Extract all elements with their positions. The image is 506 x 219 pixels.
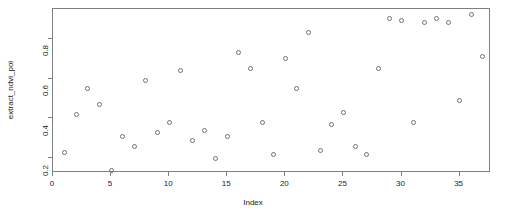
y-tick-label: 0.8 xyxy=(41,38,50,64)
data-point xyxy=(353,144,358,149)
x-tick-label: 35 xyxy=(446,179,472,188)
data-point xyxy=(225,134,230,139)
scatter-plot-figure: 05101520253035 0.20.40.60.8 Index extrac… xyxy=(0,0,506,219)
data-point xyxy=(190,138,195,143)
data-point xyxy=(283,56,288,61)
y-tick-label: 0.4 xyxy=(41,117,50,143)
x-tick-mark xyxy=(110,172,111,176)
y-axis-label: extract_ndvi_poi xyxy=(6,8,18,172)
data-point xyxy=(202,128,207,133)
data-point xyxy=(271,152,276,157)
x-tick-mark xyxy=(284,172,285,176)
data-point xyxy=(155,130,160,135)
x-tick-label: 15 xyxy=(213,179,239,188)
x-tick-label: 10 xyxy=(155,179,181,188)
data-point xyxy=(318,148,323,153)
x-tick-mark xyxy=(342,172,343,176)
x-tick-mark xyxy=(52,172,53,176)
data-point xyxy=(260,120,265,125)
x-tick-label: 25 xyxy=(329,179,355,188)
x-tick-label: 5 xyxy=(97,179,123,188)
y-tick-label: 0.6 xyxy=(41,78,50,104)
x-tick-mark xyxy=(226,172,227,176)
data-point xyxy=(97,102,102,107)
data-point xyxy=(62,150,67,155)
data-points-layer xyxy=(53,9,489,171)
data-point xyxy=(399,18,404,23)
data-point xyxy=(480,54,485,59)
x-tick-mark xyxy=(401,172,402,176)
data-point xyxy=(422,20,427,25)
y-tick-label: 0.2 xyxy=(41,157,50,183)
data-point xyxy=(434,16,439,21)
data-point xyxy=(85,86,90,91)
data-point xyxy=(376,66,381,71)
data-point xyxy=(329,122,334,127)
data-point xyxy=(248,66,253,71)
x-tick-mark xyxy=(459,172,460,176)
data-point xyxy=(364,152,369,157)
data-point xyxy=(178,68,183,73)
data-point xyxy=(306,30,311,35)
data-point xyxy=(120,134,125,139)
data-point xyxy=(294,86,299,91)
x-axis-label: Index xyxy=(0,198,506,207)
data-point xyxy=(341,110,346,115)
data-point xyxy=(236,50,241,55)
data-point xyxy=(74,112,79,117)
plot-area-box xyxy=(52,8,490,172)
x-tick-label: 30 xyxy=(388,179,414,188)
data-point xyxy=(411,120,416,125)
x-tick-mark xyxy=(168,172,169,176)
data-point xyxy=(446,20,451,25)
data-point xyxy=(469,12,474,17)
data-point xyxy=(167,120,172,125)
data-point xyxy=(387,16,392,21)
x-tick-label: 20 xyxy=(271,179,297,188)
data-point xyxy=(132,144,137,149)
data-point xyxy=(457,98,462,103)
data-point xyxy=(143,78,148,83)
data-point xyxy=(213,156,218,161)
